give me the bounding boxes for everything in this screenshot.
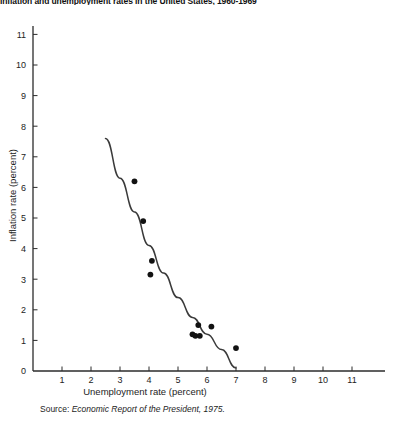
x-tick-label: 11 — [347, 375, 356, 385]
chart-plot-area: 1234567891011 01234567891011 Unemploymen… — [0, 0, 396, 400]
y-tick-label: 2 — [21, 305, 26, 315]
y-axis-title: Inflation rate (percent) — [7, 116, 18, 276]
y-tick-label: 1 — [21, 336, 26, 346]
data-point — [209, 324, 215, 330]
x-tick-label: 9 — [291, 375, 296, 385]
y-tick-label: 0 — [21, 366, 26, 376]
phillips-curve — [106, 138, 237, 368]
y-tick-label: 11 — [17, 30, 26, 40]
x-tick-label: 2 — [88, 375, 93, 385]
source-text: Economic Report of the President, 1975. — [72, 404, 225, 414]
x-tick-label: 5 — [175, 375, 180, 385]
y-tick-label: 6 — [21, 183, 26, 193]
data-point — [233, 345, 239, 351]
data-point-group — [132, 178, 239, 351]
y-tick-label: 9 — [21, 91, 26, 101]
data-point — [140, 218, 146, 224]
data-point — [149, 258, 155, 264]
x-tick-label: 6 — [204, 375, 209, 385]
x-tick-label: 4 — [146, 375, 151, 385]
scatter-chart: 1234567891011 01234567891011 — [0, 0, 396, 400]
y-tick-label: 3 — [21, 275, 26, 285]
source-note: Source: Economic Report of the President… — [40, 404, 225, 414]
data-point — [148, 272, 154, 278]
y-tick-label: 8 — [21, 122, 26, 132]
y-tick-label: 7 — [21, 152, 26, 162]
data-point — [195, 322, 201, 328]
x-tick-label: 10 — [318, 375, 328, 385]
x-axis-tick-labels: 1234567891011 — [59, 375, 356, 385]
chart-axes — [33, 26, 385, 371]
y-axis-ticks — [33, 34, 38, 340]
y-tick-label: 5 — [21, 213, 26, 223]
x-tick-label: 1 — [59, 375, 64, 385]
x-tick-label: 8 — [262, 375, 267, 385]
y-tick-label: 4 — [21, 244, 26, 254]
source-label: Source: — [40, 404, 69, 414]
y-tick-label: 10 — [16, 60, 26, 70]
data-point — [197, 333, 203, 339]
x-axis-title: Unemployment rate (percent) — [0, 386, 290, 397]
data-point — [132, 178, 138, 184]
x-tick-label: 3 — [117, 375, 122, 385]
x-tick-label: 7 — [233, 375, 238, 385]
x-axis-ticks — [62, 367, 352, 372]
